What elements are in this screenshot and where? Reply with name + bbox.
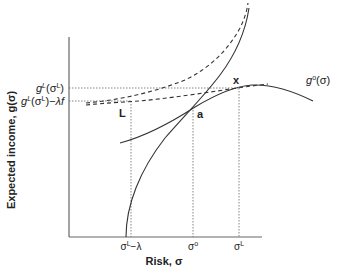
x-tick-sigmaL-lambda: σL−λ xyxy=(121,240,142,252)
point-L-label: L xyxy=(119,107,126,119)
x-tick-sigma-o: σo xyxy=(188,240,198,252)
point-a-label: a xyxy=(197,108,204,120)
point-x-label: x xyxy=(233,74,240,86)
y-tick-gL: gL(σL) xyxy=(36,82,64,94)
y-axis-title: Expected income, g(σ) xyxy=(5,91,17,209)
x-axis-title: Risk, σ xyxy=(146,255,183,267)
curve-go xyxy=(120,85,313,143)
x-tick-sigmaL: σL xyxy=(234,240,244,252)
curve-go-label: go(σ) xyxy=(306,74,330,86)
curve-shallow-dashed xyxy=(86,84,268,105)
diagram-canvas: gL(σL) gL(σL)−λf σL−λ σo σL Risk, σ Expe… xyxy=(0,0,337,273)
y-tick-gL-minus-lambda-f: gL(σL)−λf xyxy=(21,95,65,107)
curve-steep-dashed xyxy=(86,3,248,103)
